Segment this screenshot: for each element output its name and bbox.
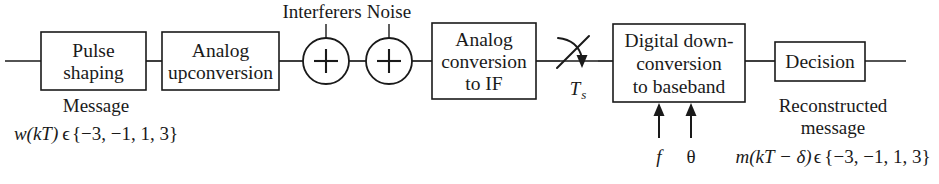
noise-label: Noise: [367, 1, 411, 22]
analog-conversion-if-label-line1: Analog: [455, 29, 513, 50]
sampling-switch: Ts: [557, 36, 598, 102]
digital-downconversion-label-line1: Digital down-: [625, 30, 734, 51]
interferers-label: Interferers: [282, 1, 361, 22]
digital-downconversion-label-line3: to baseband: [633, 76, 726, 97]
sampling-period-label: Ts: [570, 78, 587, 102]
block-digital-downconversion: Digital down- conversion to baseband: [613, 24, 745, 102]
output-alphabet: {−3, −1, 1, 3}: [824, 146, 930, 167]
frequency-input-label: f: [656, 146, 664, 167]
summing-junction-interferers: Interferers: [282, 1, 361, 84]
message-equation: w(kT)ϵ{−3, −1, 1, 3}: [14, 123, 178, 145]
downconversion-control-inputs: f θ: [654, 103, 697, 167]
message-symbol: w(kT): [14, 123, 58, 145]
message-alphabet: {−3, −1, 1, 3}: [72, 123, 178, 144]
block-pulse-shaping: Pulse shaping: [41, 32, 146, 90]
sampling-period-subscript: s: [581, 87, 586, 102]
message-label: Message: [63, 95, 129, 116]
phase-arrow-head: [686, 103, 697, 116]
block-decision: Decision: [775, 42, 865, 81]
analog-upconversion-label-line1: Analog: [192, 40, 250, 61]
phase-input-label: θ: [686, 146, 695, 167]
analog-conversion-if-label-line2: conversion: [441, 51, 527, 72]
frequency-arrow-head: [654, 103, 665, 116]
output-membership: ϵ: [814, 146, 822, 167]
block-analog-upconversion: Analog upconversion: [162, 32, 279, 90]
analog-upconversion-label-line2: upconversion: [168, 62, 273, 83]
block-diagram-canvas: Pulse shaping Analog upconversion Interf…: [0, 0, 939, 184]
decision-label: Decision: [785, 51, 855, 72]
digital-downconversion-label-line2: conversion: [636, 53, 722, 74]
output-symbol-m: m: [735, 146, 749, 167]
reconstructed-message-annotation: Reconstructed message m(kT − δ)ϵ{−3, −1,…: [735, 95, 930, 168]
output-symbol-arg: (kT − δ): [749, 146, 811, 168]
message-annotation: Message w(kT)ϵ{−3, −1, 1, 3}: [14, 95, 178, 145]
summing-junction-noise: Noise: [366, 1, 412, 84]
sampling-period-base: T: [570, 78, 582, 99]
pulse-shaping-label-line1: Pulse: [72, 40, 114, 61]
block-analog-conversion-to-if: Analog conversion to IF: [432, 23, 536, 99]
pulse-shaping-label-line2: shaping: [63, 62, 124, 83]
reconstructed-equation: m(kT − δ)ϵ{−3, −1, 1, 3}: [735, 146, 930, 168]
reconstructed-label-line1: Reconstructed: [779, 95, 888, 116]
message-membership: ϵ: [62, 123, 70, 144]
switch-blade: [557, 36, 589, 68]
analog-conversion-if-label-line3: to IF: [465, 73, 503, 94]
reconstructed-label-line2: message: [801, 117, 865, 138]
